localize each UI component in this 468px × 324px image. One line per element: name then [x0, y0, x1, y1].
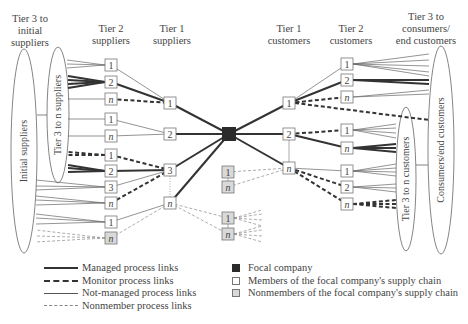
nonmember-swatch-icon — [232, 289, 240, 297]
link-notmanaged — [111, 170, 170, 187]
link-managed — [111, 170, 170, 171]
link-notmanaged — [111, 203, 170, 222]
header-line: Tier 2 — [86, 23, 136, 35]
legend-managed: Managed process links — [44, 262, 196, 275]
fan-line — [234, 226, 262, 234]
header-line: customers — [324, 35, 378, 47]
svg-text:1: 1 — [345, 166, 350, 177]
managed-line-swatch — [44, 267, 78, 269]
notmanaged-line-swatch — [44, 293, 78, 294]
member-node-c1_2: 2 — [283, 128, 295, 140]
member-node-s1_3: 3 — [164, 164, 176, 176]
svg-text:2: 2 — [345, 182, 350, 193]
fan-line — [68, 171, 105, 172]
member-node-c2_1b: 1 — [341, 124, 353, 136]
nonmember-node-nm_nb: n — [222, 228, 234, 240]
header-line: end customers — [384, 35, 468, 47]
member-node-c2_2c: 2 — [341, 181, 353, 193]
link-monitor — [111, 155, 170, 170]
legend-nonmember-box: Nonmembers of the focal company's supply… — [232, 287, 458, 300]
fan-line — [234, 210, 262, 218]
svg-text:n: n — [109, 198, 114, 209]
fan-line — [68, 152, 105, 155]
member-node-s2_nc: n — [105, 197, 117, 209]
fan-line — [353, 54, 429, 64]
fan-line — [36, 214, 105, 222]
legend-label: Not-managed process links — [82, 287, 196, 300]
svg-text:n: n — [287, 163, 292, 174]
member-node-s1_2: 2 — [164, 128, 176, 140]
svg-text:1: 1 — [109, 60, 114, 71]
member-node-c2_1c: 1 — [341, 165, 353, 177]
nonmember-node-s2_nd: n — [105, 232, 117, 244]
link-nonmember — [170, 203, 228, 218]
fan-line — [234, 214, 262, 218]
svg-text:3: 3 — [168, 165, 173, 176]
fan-line — [36, 230, 105, 238]
svg-text:2: 2 — [109, 166, 114, 177]
nodes-layer: 12n1n123n1n123n12n12n1n12n1n1n — [105, 58, 353, 244]
fan-line — [353, 164, 396, 171]
header-line: consumers/ — [384, 23, 468, 35]
svg-text:n: n — [109, 233, 114, 244]
svg-text:1: 1 — [168, 98, 173, 109]
link-managed — [170, 134, 229, 170]
link-nonmember — [111, 203, 170, 238]
svg-text:n: n — [345, 92, 350, 103]
member-node-s2_1b: 1 — [105, 113, 117, 125]
legend-label: Nonmembers of the focal company's supply… — [248, 287, 458, 300]
link-notmanaged — [111, 65, 170, 103]
header-line: customers — [262, 35, 316, 47]
svg-text:1: 1 — [287, 98, 292, 109]
focal-swatch-icon — [232, 264, 240, 272]
member-swatch-icon — [232, 277, 240, 285]
header-tier2-suppliers: Tier 2 suppliers — [86, 23, 136, 47]
legend-label: Nonmember process links — [82, 300, 192, 313]
nonmember-node-nm_1a: 1 — [222, 166, 234, 178]
fan-line — [234, 230, 262, 234]
header-line: Tier 3 to — [2, 13, 58, 25]
link-managed — [229, 134, 289, 168]
header-tier1-suppliers: Tier 1 suppliers — [148, 23, 196, 47]
fan-line — [36, 187, 105, 190]
legend-notmanaged: Not-managed process links — [44, 287, 196, 300]
fan-line — [36, 203, 105, 205]
fan-line — [234, 234, 262, 236]
svg-text:2: 2 — [168, 129, 173, 140]
member-node-s2_nb: n — [105, 130, 117, 142]
member-node-s2_2c: 2 — [105, 165, 117, 177]
fan-line — [353, 168, 396, 171]
member-node-s2_1d: 1 — [105, 216, 117, 228]
svg-text:n: n — [109, 131, 114, 142]
nonmember-node-nm_na: n — [222, 181, 234, 193]
link-nonmember — [228, 168, 289, 172]
svg-text:n: n — [109, 94, 114, 105]
member-node-c2_2a: 2 — [341, 74, 353, 86]
member-node-c2_nb: n — [341, 142, 353, 154]
svg-text:1: 1 — [109, 217, 114, 228]
header-tier3-consumers: Tier 3 to consumers/ end customers — [384, 11, 468, 47]
link-managed — [170, 134, 229, 203]
header-line: suppliers — [148, 35, 196, 47]
header-line: Tier 3 to — [384, 11, 468, 23]
fan-line — [353, 90, 429, 97]
member-node-s2_1c: 1 — [105, 149, 117, 161]
fan-line — [353, 184, 396, 187]
member-node-c2_1a: 1 — [341, 58, 353, 70]
fan-line — [234, 218, 262, 220]
header-tier1-customers: Tier 1 customers — [262, 23, 316, 47]
member-node-s1_n: n — [164, 197, 176, 209]
header-line: suppliers — [86, 35, 136, 47]
member-node-c1_n: n — [283, 162, 295, 174]
legend-label: Members of the focal company's supply ch… — [248, 275, 441, 288]
header-line: suppliers — [2, 37, 58, 49]
focal-company-node — [222, 127, 236, 141]
svg-text:2: 2 — [345, 75, 350, 86]
svg-text:n: n — [168, 198, 173, 209]
fan-line — [234, 234, 262, 242]
legend-nonmember: Nonmember process links — [44, 300, 196, 313]
legend-monitor: Monitor process links — [44, 275, 196, 288]
svg-text:n: n — [345, 143, 350, 154]
fan-line — [353, 94, 429, 97]
link-monitor — [289, 130, 347, 134]
